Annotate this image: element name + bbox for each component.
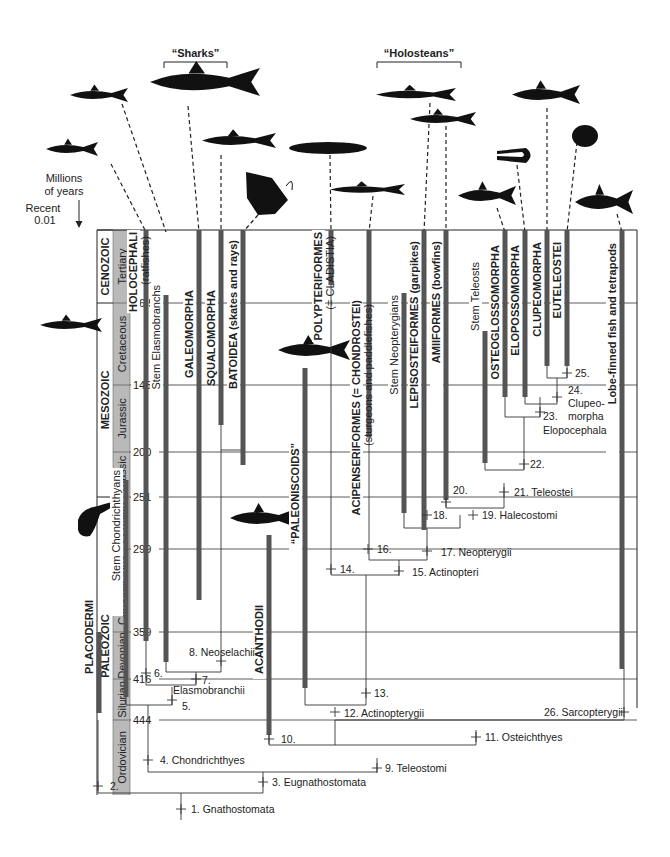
acanthodian-silhouette-icon: [230, 503, 298, 528]
taxon-name: BATOIDEA (skates and rays): [227, 240, 239, 389]
taxon-range-bar: [483, 331, 488, 463]
taxon-subtitle: (sturgeons and paddlefishes): [362, 304, 374, 446]
node-label: 5.: [182, 700, 191, 712]
time-axis-header: Millions of years Recent 0.01: [26, 172, 84, 228]
taxon-label-group: LEPISOSTEIFORMES (garpikes): [408, 239, 421, 437]
taxon-label-group: “PALEONISCOIDS”: [289, 441, 302, 553]
node-label: 26. Sarcopterygii: [544, 706, 623, 718]
taxon-range-bar: [164, 295, 169, 662]
cladogram-branch: [505, 397, 540, 417]
taxon-subtitle: (= CLADISTIA): [324, 236, 336, 310]
node-label: Elasmobranchii: [173, 684, 245, 696]
node-label: 14.: [340, 563, 355, 575]
node-label: 13.: [374, 687, 389, 699]
silhouette-leader-line: [497, 208, 505, 232]
node-label: 21. Teleostei: [514, 486, 573, 498]
taxon-label-group: ACANTHODII: [253, 603, 266, 679]
clupeomorph-silhouette-icon: [512, 80, 580, 104]
taxon-range-bar: [444, 230, 449, 500]
cladogram-branch: [305, 575, 366, 705]
node-label: 18.: [433, 509, 448, 521]
ray-silhouette-icon: [246, 172, 288, 215]
taxon-name: SQUALOMORPHA: [205, 290, 217, 386]
taxon-label-group: CLUPEOMORPHA: [531, 240, 544, 337]
time-tick-label: 200: [133, 446, 151, 458]
group-brackets: “Sharks”“Holosteans”: [164, 47, 461, 68]
taxon-label-group: OSTEOGLOSSOMORPHA: [489, 243, 502, 379]
node-label: 17. Neopterygii: [441, 546, 512, 558]
taxon-name: Stem Chondrichthyans: [110, 470, 122, 582]
silhouette-leader-line: [111, 164, 146, 232]
taxon-name: EUTELEOSTEI: [551, 242, 563, 318]
taxon-name: ELOPOSSOMORPHA: [509, 245, 521, 356]
taxon-name: Stem Elasmobranchs: [150, 285, 162, 390]
taxon-name: Stem Teleosts: [469, 262, 481, 331]
ray-tail-icon: [286, 181, 292, 190]
axis-title-line2: of years: [44, 185, 84, 197]
taxon-name: PLACODERMI: [83, 600, 95, 674]
silhouette-leader-line: [330, 155, 331, 232]
taxon-range-bar: [267, 535, 272, 735]
node-label: 25.: [575, 367, 590, 379]
taxon-label-group: POLYPTERIFORMES(= CLADISTIA): [312, 230, 336, 342]
silhouette-leader-line: [369, 196, 373, 232]
cladogram-branch: [221, 450, 243, 657]
node-label: morpha: [568, 410, 604, 422]
node-label: 15. Actinopteri: [412, 566, 479, 578]
taxon-name: GALEOMORPHA: [183, 290, 195, 378]
taxon-name: ACIPENSERIFORMES (= CHONDROSTEI): [350, 300, 362, 516]
taxon-name: ACANTHODII: [253, 605, 265, 674]
eel-silhouette-icon: [497, 148, 531, 163]
taxon-label-group: GALEOMORPHA: [183, 288, 196, 378]
node-label: 16.: [377, 543, 392, 555]
cladogram-branch: [166, 657, 221, 672]
galeomorph-shark-silhouette-icon: [150, 61, 260, 96]
sturgeon-silhouette-icon: [330, 181, 405, 195]
taxon-range-bar: [503, 230, 508, 397]
time-tick-label: 444: [133, 714, 151, 726]
silhouette-leader-line: [617, 214, 622, 232]
coelacanth-silhouette-icon: [575, 184, 633, 214]
cladogram-branch: [369, 437, 427, 560]
taxon-subtitle: (ratfishes): [139, 236, 151, 285]
osteoglossomorph-silhouette-icon: [458, 181, 516, 205]
recent-label: Recent: [26, 202, 61, 214]
period-label: Cretaceous: [116, 315, 128, 372]
stem-chondrichthyan-silhouette-icon: [40, 315, 102, 333]
phylogeny-diagram: CENOZOICMESOZOICPALEOZOICTertiaryCretace…: [0, 0, 670, 857]
polypterus-silhouette-icon: [289, 142, 367, 154]
gar-silhouette-icon: [376, 85, 456, 101]
node-label: Clupeo-: [568, 397, 605, 409]
node-label: 1. Gnathostomata: [191, 803, 275, 815]
node-label: 4. Chondrichthyes: [160, 754, 245, 766]
node-label: 23.: [543, 410, 558, 422]
group-bracket-label: “Sharks”: [172, 47, 220, 59]
taxon-range-bar: [303, 368, 308, 688]
axis-title-line1: Millions: [46, 172, 83, 184]
taxon-range-bar: [523, 230, 528, 397]
taxon-label-group: AMIIFORMES (bowfins): [430, 239, 443, 387]
cladogram-branch: [485, 417, 524, 470]
node-label: 8. Neoselachii: [189, 646, 255, 658]
ratfish-silhouette-icon: [46, 139, 98, 157]
taxon-range-bar: [620, 230, 625, 669]
recent-value: 0.01: [34, 214, 55, 226]
group-bracket-label: “Holosteans”: [384, 47, 454, 59]
period-label: Jurassic: [116, 398, 128, 439]
time-tick-label: 145: [133, 379, 151, 391]
node-label: 3. Eugnathostomata: [272, 776, 366, 788]
node-label: 20.: [453, 484, 468, 496]
taxon-label-group: ELOPOSSOMORPHA: [509, 243, 522, 356]
silhouette-leader-line: [517, 165, 525, 232]
era-label: MESOZOIC: [99, 371, 111, 430]
taxon-name: HOLOCEPHALI: [127, 232, 139, 312]
taxon-name: AMIIFORMES (bowfins): [430, 241, 442, 364]
taxon-range-bar: [97, 632, 102, 713]
bowfin-silhouette-icon: [410, 109, 476, 127]
taxon-name: LEPISOSTEIFORMES (garpikes): [408, 241, 420, 409]
taxon-label-group: BATOIDEA (skates and rays): [227, 238, 240, 429]
taxon-range-bar: [124, 480, 129, 697]
taxon-name: “PALEONISCOIDS”: [289, 443, 301, 544]
taxon-range-bar: [241, 230, 246, 465]
taxon-label-group: Lobe-finned fish and tetrapods: [606, 241, 619, 461]
